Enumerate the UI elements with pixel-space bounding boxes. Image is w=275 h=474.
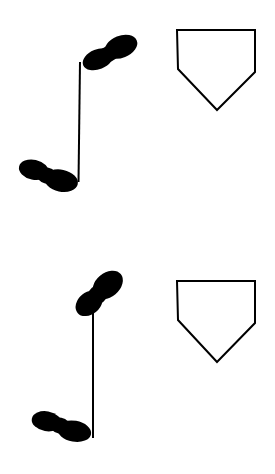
illustration-canvas <box>0 0 275 474</box>
home-plate-icon <box>177 281 255 362</box>
footprint-eighth-note-icon <box>29 265 129 445</box>
home-plate-icon <box>177 30 255 110</box>
footprint-eighth-note-icon <box>16 30 142 195</box>
